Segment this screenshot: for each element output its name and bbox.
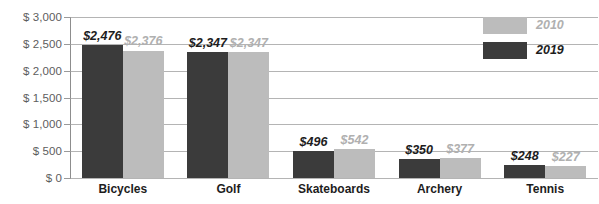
y-axis: $ 0$ 500$ 1,000$ 1,500$ 2,000$ 2,500$ 3,… bbox=[0, 0, 62, 204]
bar-tennis-2019 bbox=[504, 165, 545, 178]
gridline bbox=[70, 178, 598, 179]
bar-chart: $ 0$ 500$ 1,000$ 1,500$ 2,000$ 2,500$ 3,… bbox=[0, 0, 599, 204]
y-axis-tick-label: $ 2,500 bbox=[0, 38, 62, 50]
x-axis-category-label: Archery bbox=[387, 182, 493, 196]
value-label-golf-2010: $2,347 bbox=[222, 36, 275, 50]
y-axis-tick-mark bbox=[64, 17, 71, 18]
legend-item-2010[interactable]: 2010 bbox=[483, 14, 591, 36]
bar-skateboards-2019 bbox=[293, 151, 334, 178]
bar-golf-2010 bbox=[228, 52, 269, 178]
legend-swatch-2010 bbox=[483, 17, 527, 34]
y-axis-tick-mark bbox=[64, 151, 71, 152]
x-axis-category-label: Tennis bbox=[492, 182, 598, 196]
y-axis-tick-label: $ 2,000 bbox=[0, 65, 62, 77]
bar-golf-2019 bbox=[187, 52, 228, 178]
y-axis-tick-mark bbox=[64, 71, 71, 72]
x-axis-category-label: Skateboards bbox=[281, 182, 387, 196]
bar-skateboards-2010 bbox=[334, 149, 375, 178]
y-axis-tick-label: $ 1,500 bbox=[0, 92, 62, 104]
value-label-tennis-2010: $227 bbox=[539, 150, 592, 164]
y-axis-tick-label: $ 0 bbox=[0, 172, 62, 184]
y-axis-tick-label: $ 3,000 bbox=[0, 11, 62, 23]
y-axis-tick-label: $ 500 bbox=[0, 145, 62, 157]
y-axis-tick-mark bbox=[64, 124, 71, 125]
chart-legend: 20102019 bbox=[483, 14, 591, 64]
bar-archery-2010 bbox=[440, 158, 481, 178]
y-axis-tick-mark bbox=[64, 178, 71, 179]
legend-item-2019[interactable]: 2019 bbox=[483, 39, 591, 61]
bar-archery-2019 bbox=[399, 159, 440, 178]
legend-swatch-2019 bbox=[483, 42, 527, 59]
y-axis-tick-mark bbox=[64, 98, 71, 99]
value-label-skateboards-2010: $542 bbox=[328, 133, 381, 147]
x-axis-category-label: Bicycles bbox=[70, 182, 176, 196]
legend-label-2019: 2019 bbox=[536, 43, 564, 57]
x-axis-category-label: Golf bbox=[176, 182, 282, 196]
legend-label-2010: 2010 bbox=[536, 18, 564, 32]
bar-tennis-2010 bbox=[545, 166, 586, 178]
value-label-bicycles-2010: $2,376 bbox=[117, 34, 170, 48]
value-label-archery-2010: $377 bbox=[434, 142, 487, 156]
bar-bicycles-2019 bbox=[82, 45, 123, 178]
y-axis-tick-label: $ 1,000 bbox=[0, 118, 62, 130]
y-axis-tick-mark bbox=[64, 44, 71, 45]
bar-bicycles-2010 bbox=[123, 51, 164, 179]
